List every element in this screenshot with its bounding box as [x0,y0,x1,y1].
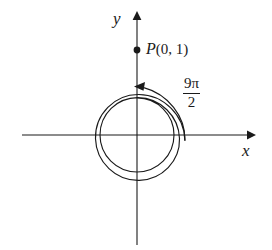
angle-spiral [95,82,184,180]
spiral-arrowhead-icon [134,82,145,91]
x-axis [22,131,256,140]
x-axis-label: x [242,141,250,161]
y-axis [133,11,142,245]
spiral-path [95,94,184,180]
angle-denominator: 2 [182,94,201,111]
y-axis-label: y [113,9,121,29]
x-axis-arrowhead-icon [247,131,256,140]
y-axis-arrowhead-icon [133,11,142,20]
angle-measure-label: 9π 2 [182,76,201,111]
point-p-label: P(0, 1) [146,40,188,58]
angle-diagram-figure [0,0,272,250]
point-p-coords: (0, 1) [156,41,189,57]
angle-numerator: 9π [182,76,201,93]
point-p-name: P [146,40,156,57]
point-p-marker [134,47,141,54]
